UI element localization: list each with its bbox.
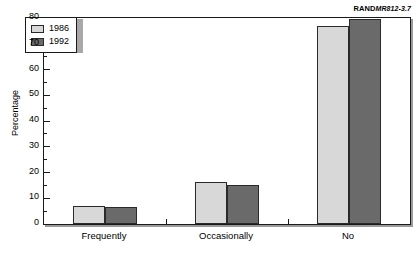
source-label: RANDMR812-3.7 — [353, 4, 411, 13]
y-axis-major-tick — [44, 198, 50, 199]
y-axis-minor-tick — [44, 56, 47, 57]
x-axis-tick-label: Frequently — [82, 230, 127, 241]
x-axis-tick — [288, 219, 289, 224]
chart-legend: 19861992 — [25, 17, 77, 53]
y-axis-tick-label: 80 — [15, 12, 39, 21]
y-axis-minor-tick — [44, 133, 47, 134]
y-axis-major-tick — [44, 146, 50, 147]
x-axis-tick — [166, 219, 167, 224]
legend-label: 1986 — [49, 24, 69, 33]
plot-area — [44, 18, 410, 224]
y-axis-major-tick — [44, 172, 50, 173]
y-axis-major-tick — [44, 224, 50, 225]
y-axis-tick-label: 0 — [15, 218, 39, 227]
y-axis-tick-label: 60 — [15, 64, 39, 73]
y-axis-tick-label: 70 — [15, 38, 39, 47]
y-axis-minor-tick — [44, 185, 47, 186]
bar-1992-frequently — [105, 207, 137, 224]
y-axis-minor-tick — [44, 211, 47, 212]
chart-figure: RANDMR812-3.7 Percentage 19861992 010203… — [0, 0, 419, 257]
plot-frame — [43, 17, 411, 225]
x-axis-tick-label: Occasionally — [199, 230, 253, 241]
bar-1992-occasionally — [227, 185, 259, 224]
legend-item: 1986 — [31, 22, 69, 35]
y-axis-minor-tick — [44, 159, 47, 160]
y-axis-major-tick — [44, 69, 50, 70]
legend-label: 1992 — [49, 37, 69, 46]
y-axis-tick-label: 10 — [15, 192, 39, 201]
y-axis-major-tick — [44, 121, 50, 122]
x-axis-tick-label: No — [342, 230, 354, 241]
bar-1986-occasionally — [195, 182, 227, 224]
y-axis-tick-label: 30 — [15, 141, 39, 150]
y-axis-tick-label: 40 — [15, 115, 39, 124]
y-axis-minor-tick — [44, 82, 47, 83]
y-axis-tick-label: 20 — [15, 167, 39, 176]
y-axis-minor-tick — [44, 108, 47, 109]
source-brand: RAND — [353, 4, 375, 13]
legend-swatch-1986 — [31, 25, 44, 33]
y-axis-major-tick — [44, 95, 50, 96]
y-axis-tick-label: 50 — [15, 89, 39, 98]
bar-1992-no — [349, 19, 381, 224]
bar-1986-frequently — [73, 206, 105, 224]
source-document-id: MR812-3.7 — [375, 5, 411, 12]
bar-1986-no — [317, 26, 349, 224]
